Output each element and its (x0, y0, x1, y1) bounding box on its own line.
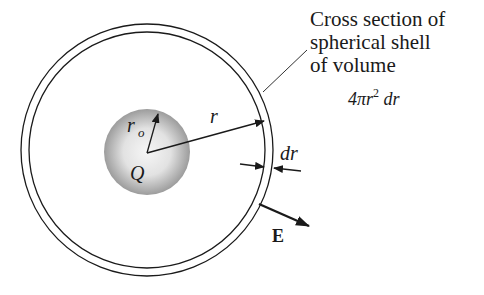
volume-formula-base: 4πr (348, 89, 374, 109)
gauss-law-diagram: r o Q r dr E Cross section of spherical … (0, 0, 484, 295)
thickness-label: dr (280, 142, 298, 164)
electric-field-label: E (272, 226, 284, 246)
thickness-indicator: dr (240, 142, 301, 171)
caption-leader-line (263, 50, 307, 92)
caption-line-3: of volume (310, 53, 396, 77)
thickness-arrow-right (274, 168, 301, 171)
thickness-arrow-left (240, 164, 264, 167)
charge-label: Q (130, 162, 145, 184)
radius-label: r (210, 105, 218, 127)
caption-line-2: spherical shell (310, 30, 431, 54)
core-radius-label: r (127, 114, 135, 136)
core-radius-subscript: o (138, 125, 145, 140)
volume-formula-differential: dr (379, 89, 401, 109)
electric-field-arrow (259, 204, 309, 226)
caption: Cross section of spherical shell of volu… (310, 7, 445, 109)
caption-line-1: Cross section of (310, 7, 445, 31)
volume-formula: 4πr2 dr (348, 86, 401, 109)
